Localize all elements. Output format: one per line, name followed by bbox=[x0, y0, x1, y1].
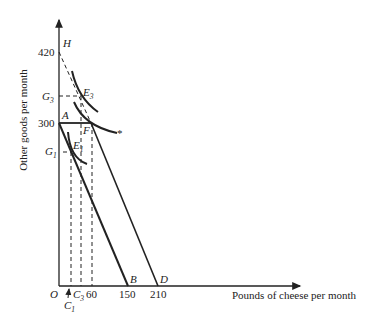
x-tick-150: 150 bbox=[119, 288, 136, 300]
y-marker-G3: G3 bbox=[42, 90, 54, 105]
cheese-diagram: Other goods per month Pounds of cheese p… bbox=[0, 0, 365, 325]
x-marker-C1: C1 bbox=[64, 299, 75, 314]
point-A: A bbox=[61, 109, 69, 121]
budget-line-AB bbox=[59, 123, 128, 286]
x-tick-60: 60 bbox=[86, 288, 98, 300]
y-axis-title: Other goods per month bbox=[17, 69, 29, 171]
point-H: H bbox=[62, 37, 72, 49]
indifference-curve-middle bbox=[74, 102, 117, 133]
star-marker: * bbox=[117, 127, 123, 139]
y-tick-420: 420 bbox=[38, 46, 55, 58]
origin-label: O bbox=[50, 288, 58, 300]
y-marker-G1: G1 bbox=[45, 145, 57, 160]
point-B: B bbox=[130, 273, 137, 285]
x-tick-210: 210 bbox=[150, 288, 167, 300]
C1-pointer-arrow bbox=[68, 289, 69, 298]
x-marker-C3: C3 bbox=[73, 288, 84, 303]
point-F: F bbox=[82, 124, 90, 136]
point-D: D bbox=[159, 273, 168, 285]
y-tick-300: 300 bbox=[38, 117, 55, 129]
x-axis-title: Pounds of cheese per month bbox=[232, 289, 357, 301]
budget-line-FD bbox=[91, 123, 158, 286]
